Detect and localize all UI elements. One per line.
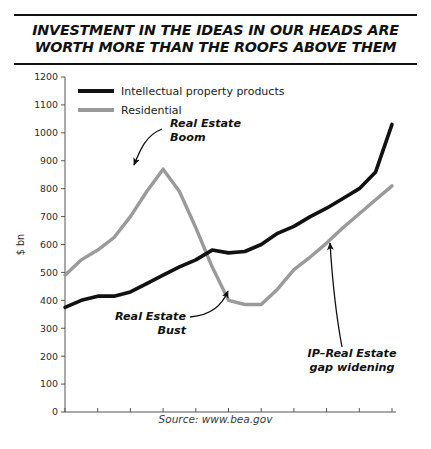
x-tick-label: 2003 xyxy=(113,416,139,417)
y-tick-label: 1000 xyxy=(34,127,58,138)
legend-label-1: Residential xyxy=(121,104,182,117)
y-tick-label: 800 xyxy=(40,183,58,194)
page-title: INVESTMENT IN THE IDEAS IN OUR HEADS ARE… xyxy=(14,22,417,56)
x-tick-label: 2005 xyxy=(146,416,172,417)
line-chart: 0100200300400500600700800900100011001200… xyxy=(0,65,431,417)
x-tick-label: 2009 xyxy=(211,416,237,417)
annotation-arrow-bust xyxy=(190,291,228,317)
y-tick-label: 1100 xyxy=(34,99,58,110)
y-tick-label: 100 xyxy=(40,378,58,389)
x-tick-label: 2001 xyxy=(80,416,106,417)
x-tick-label: 2007 xyxy=(179,416,205,417)
x-tick-label: 2015 xyxy=(309,416,335,417)
chart-page: INVESTMENT IN THE IDEAS IN OUR HEADS ARE… xyxy=(0,0,431,449)
x-tick-label: 2019 xyxy=(375,416,401,417)
y-tick-label: 500 xyxy=(40,267,58,278)
x-tick-label: 2017 xyxy=(342,416,368,417)
y-axis-title: $ bn xyxy=(15,234,26,255)
series-line-ip xyxy=(65,124,392,307)
annotation-gap: IP–Real Estategap widening xyxy=(307,347,396,374)
chart-container: 0100200300400500600700800900100011001200… xyxy=(0,65,431,417)
annotation-boom: Real EstateBoom xyxy=(170,117,241,144)
y-tick-label: 300 xyxy=(40,322,58,333)
title-banner: INVESTMENT IN THE IDEAS IN OUR HEADS ARE… xyxy=(14,14,417,65)
y-tick-label: 600 xyxy=(40,239,58,250)
annotation-arrow-boom xyxy=(134,129,162,165)
annotation-bust: Real EstateBust xyxy=(115,310,187,337)
y-tick-label: 1200 xyxy=(34,71,58,82)
y-tick-label: 900 xyxy=(40,155,58,166)
y-tick-label: 400 xyxy=(40,294,58,305)
legend-label-0: Intellectual property products xyxy=(121,85,285,98)
y-tick-label: 200 xyxy=(40,350,58,361)
x-tick-label: 2011 xyxy=(244,416,270,417)
x-tick-label: 2013 xyxy=(277,416,303,417)
y-tick-label: 0 xyxy=(52,406,58,417)
y-tick-label: 700 xyxy=(40,211,58,222)
series-line-residential xyxy=(65,169,392,304)
annotation-arrow-gap xyxy=(330,243,342,347)
